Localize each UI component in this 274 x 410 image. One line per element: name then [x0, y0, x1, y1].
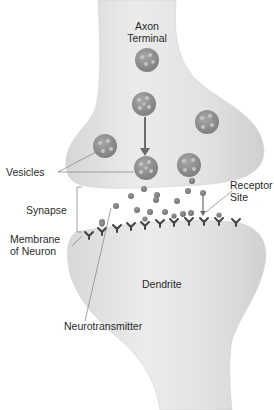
vesicles-label: Vesicles: [6, 166, 45, 178]
vesicle: [177, 153, 201, 177]
receptor-arrow: [200, 196, 206, 216]
receptor-site-label: Receptor Site: [230, 179, 273, 203]
vesicle: [134, 156, 158, 180]
dendrite-shape: [67, 221, 265, 410]
axon-terminal-label-line2: Terminal: [122, 32, 172, 44]
axon-terminal-label-line1: Axon: [122, 20, 172, 32]
receptor-site-label-line2: Site: [230, 191, 273, 203]
receptor-site-label-line1: Receptor: [230, 179, 273, 191]
membrane-label: Membrane of Neuron: [10, 233, 60, 257]
vesicle: [135, 48, 159, 72]
vesicle: [93, 134, 117, 158]
membrane-label-line2: of Neuron: [10, 245, 60, 257]
axon-terminal-label: Axon Terminal: [122, 20, 172, 44]
dendrite-label: Dendrite: [142, 278, 182, 290]
membrane-label-line1: Membrane: [10, 233, 60, 245]
neurotransmitter-label: Neurotransmitter: [64, 320, 142, 332]
synapse-label: Synapse: [26, 204, 67, 216]
vesicle: [132, 92, 156, 116]
vesicle: [195, 110, 219, 134]
